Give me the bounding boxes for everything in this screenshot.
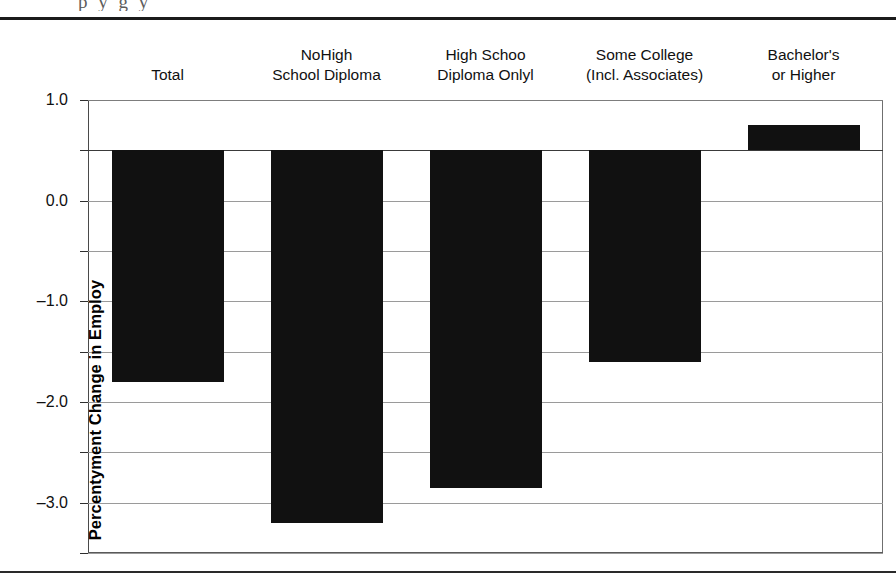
bar[interactable] [748,125,860,150]
y-axis-tick-label: –1.0 [37,292,68,310]
bar-slot [565,100,724,553]
page-rule-bottom [0,571,896,573]
bar[interactable] [430,150,542,487]
bar[interactable] [112,150,224,382]
y-axis-tick-label: –3.0 [37,494,68,512]
bar[interactable] [589,150,701,361]
y-axis-tick: 0.0 [80,150,88,151]
category-label-line2: Total [88,65,247,85]
y-axis-tick: 1.0 [80,100,88,101]
category-label: NoHighSchool Diploma [247,45,406,88]
bar-series [88,100,883,553]
gridline [88,553,883,554]
y-axis-title: Percentyment Change in Employ [86,250,105,570]
y-axis-tick-label: 0.0 [46,192,68,210]
category-label-line2: School Diploma [247,65,406,85]
category-label-line2: Diploma Onlyl [406,65,565,85]
page-title-fragment: p y g y [78,0,508,11]
category-label-line1: Some College [565,45,724,65]
bar-slot [724,100,883,553]
bar-slot [406,100,565,553]
chart-plot-area: 1.00.0–1.0–2.0–3.0–4.0–5.0–6.0–7.0–8.0 P… [88,100,883,553]
y-axis-tick-label: 1.0 [46,91,68,109]
category-label-line1: Bachelor's [724,45,883,65]
category-axis-labels: TotalNoHighSchool DiplomaHigh SchooDiplo… [88,30,883,88]
bar[interactable] [271,150,383,522]
category-label: High SchooDiploma Onlyl [406,45,565,88]
category-label-line2: or Higher [724,65,883,85]
category-label-line1: NoHigh [247,45,406,65]
category-label-line2: (Incl. Associates) [565,65,724,85]
category-label: Bachelor'sor Higher [724,45,883,88]
y-axis-tick: –1.0 [80,201,88,202]
bar-slot [247,100,406,553]
page-rule-top [0,17,896,20]
y-axis-tick-label: –2.0 [37,393,68,411]
category-label-line1: High Schoo [406,45,565,65]
category-label: Total [88,65,247,88]
category-label: Some College(Incl. Associates) [565,45,724,88]
bar-slot [88,100,247,553]
